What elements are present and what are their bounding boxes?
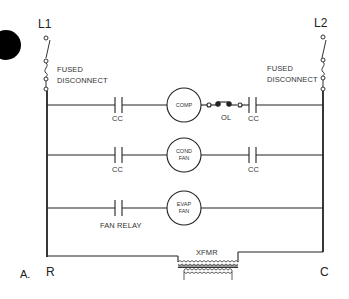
right-disconnect-label-line2: DISCONNECT — [267, 75, 318, 84]
terminal-r-label: R — [46, 265, 55, 279]
condenser-fan-coil-label-line1: COND — [171, 148, 197, 155]
evap-fan-coil-label-line1: EVAP — [171, 201, 197, 208]
rung1-right-contact-label: CC — [248, 114, 259, 123]
bullet-marker-icon — [0, 30, 21, 60]
transformer-icon — [178, 261, 238, 281]
right-fused-disconnect-icon — [321, 35, 326, 91]
ladder-diagram: L1 L2 FUSED DISCONNECT FUSED DISCONNECT … — [0, 0, 349, 299]
terminal-l1-label: L1 — [38, 17, 51, 31]
terminal-c-label: C — [320, 265, 329, 279]
compressor-coil-label: COMP — [171, 102, 197, 109]
evap-fan-coil-label-line2: FAN — [171, 208, 197, 215]
left-disconnect-label-line2: DISCONNECT — [57, 76, 108, 85]
rung2-right-contact-label: CC — [248, 165, 259, 174]
transformer-label: XFMR — [196, 248, 218, 257]
condenser-fan-coil-label-line2: FAN — [171, 155, 197, 162]
panel-label: A. — [20, 268, 30, 280]
terminal-l2-label: L2 — [314, 16, 327, 30]
left-disconnect-label-line1: FUSED — [57, 65, 83, 74]
rung2-left-contact-label: CC — [112, 165, 123, 174]
overload-label: OL — [221, 113, 231, 122]
left-fused-disconnect-icon — [44, 36, 50, 91]
rung1-left-contact-label: CC — [112, 114, 123, 123]
fan-relay-label: FAN RELAY — [100, 221, 142, 230]
right-disconnect-label-line1: FUSED — [267, 64, 293, 73]
